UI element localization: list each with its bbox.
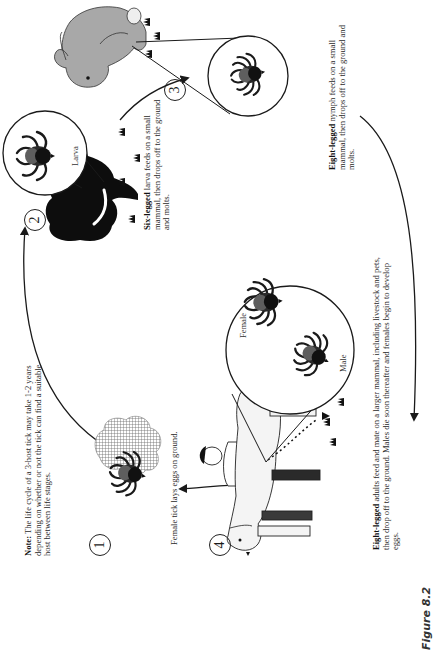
grass-icon — [118, 128, 125, 136]
larva-label: Larva — [70, 146, 80, 166]
figure-page: Note: The life cycle of a 3-host tick ma… — [0, 0, 445, 656]
figure-label: Figure 8.2 — [420, 587, 433, 650]
female-label: Female — [238, 313, 248, 338]
note-text: Note: The life cycle of a 3-host tick ma… — [24, 356, 53, 556]
rabbit-icon — [54, 7, 146, 87]
stage-3-caption: Eight-legged nymph feeds on a small mamm… — [328, 10, 357, 170]
stage-2-number: 2 — [24, 209, 46, 231]
stage-4-caption: Eight-legged adults feed and mate on a l… — [372, 250, 401, 550]
stage-1-caption: Female tick lays eggs on ground. — [170, 345, 180, 545]
stage-1-number: 1 — [89, 534, 111, 556]
stage-4-number: 4 — [209, 534, 231, 556]
male-label: Male — [338, 355, 348, 372]
stage-2-caption: Six-legged larva feeds on a small mammal… — [143, 90, 172, 230]
